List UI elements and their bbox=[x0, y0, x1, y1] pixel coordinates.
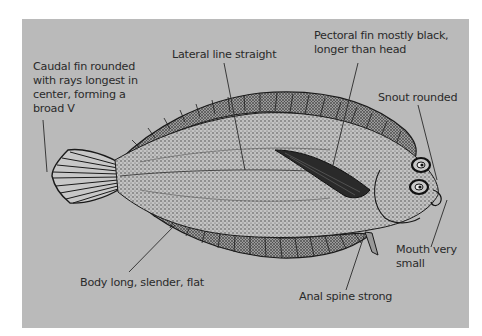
label-line: broad V bbox=[33, 102, 138, 116]
label-line: small bbox=[396, 257, 457, 271]
label-pectoral-fin: Pectoral fin mostly black, longer than h… bbox=[314, 29, 448, 57]
label-line: Anal spine strong bbox=[299, 290, 392, 304]
label-snout: Snout rounded bbox=[378, 91, 457, 105]
label-line: Mouth very bbox=[396, 243, 457, 257]
caudal-fin bbox=[52, 150, 118, 204]
label-lateral-line: Lateral line straight bbox=[172, 48, 276, 62]
label-line: center, forming a bbox=[33, 88, 138, 102]
upper-eye bbox=[412, 158, 430, 172]
label-line: Lateral line straight bbox=[172, 48, 276, 62]
lower-eye bbox=[410, 180, 428, 194]
label-line: longer than head bbox=[314, 43, 448, 57]
pointer-caudal-fin bbox=[43, 120, 47, 172]
label-line: Snout rounded bbox=[378, 91, 457, 105]
label-line: Body long, slender, flat bbox=[80, 276, 204, 290]
label-line: with rays longest in bbox=[33, 74, 138, 88]
anal-spine bbox=[365, 232, 378, 255]
label-caudal-fin: Caudal fin rounded with rays longest in … bbox=[33, 60, 138, 116]
label-mouth: Mouth very small bbox=[396, 243, 457, 271]
pointer-mouth bbox=[431, 200, 447, 247]
label-line: Caudal fin rounded bbox=[33, 60, 138, 74]
label-body: Body long, slender, flat bbox=[80, 276, 204, 290]
label-line: Pectoral fin mostly black, bbox=[314, 29, 448, 43]
pointer-body bbox=[129, 225, 175, 272]
label-anal-spine: Anal spine strong bbox=[299, 290, 392, 304]
